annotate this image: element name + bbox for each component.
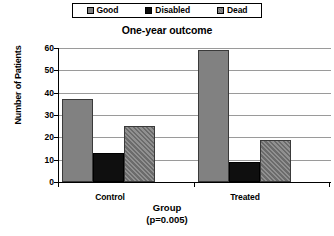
bar-group-treated bbox=[195, 48, 331, 182]
plot-area bbox=[58, 48, 331, 183]
x-axis-label-control: Control bbox=[70, 192, 150, 202]
y-tick-label-30: 30 bbox=[32, 111, 54, 120]
y-axis-label: Number of Patients bbox=[13, 25, 23, 145]
bar-treated-dead bbox=[260, 140, 291, 182]
y-tick-mark-40 bbox=[54, 93, 58, 94]
y-tick-label-10: 10 bbox=[32, 156, 54, 165]
legend-item-dead: Dead bbox=[217, 6, 247, 15]
y-tick-label-20: 20 bbox=[32, 133, 54, 142]
chart-legend: Good Disabled Dead bbox=[72, 3, 262, 18]
x-axis-label-treated: Treated bbox=[205, 192, 285, 202]
x-axis-title: Group bbox=[0, 203, 334, 214]
bar-treated-good bbox=[198, 50, 229, 182]
bar-group-control bbox=[59, 48, 195, 182]
x-axis-pvalue-note: (p=0.005) bbox=[0, 215, 334, 226]
bar-control-good bbox=[62, 99, 93, 182]
legend-swatch-disabled-icon bbox=[145, 7, 152, 14]
y-tick-label-60: 60 bbox=[32, 44, 54, 53]
x-axis-tick-end bbox=[329, 183, 330, 187]
y-tick-label-50: 50 bbox=[32, 66, 54, 75]
chart-container: Good Disabled Dead One-year outcome Numb… bbox=[0, 0, 334, 236]
bar-control-disabled bbox=[93, 153, 124, 182]
y-tick-mark-20 bbox=[54, 137, 58, 138]
x-axis-tick-middle bbox=[194, 183, 195, 187]
bar-control-dead bbox=[124, 126, 155, 182]
legend-item-good: Good bbox=[87, 6, 119, 15]
x-axis-tick-start bbox=[58, 183, 59, 187]
y-tick-mark-10 bbox=[54, 160, 58, 161]
bar-treated-disabled bbox=[229, 162, 260, 182]
y-axis-tick-labels: 0102030405060 bbox=[28, 0, 54, 236]
y-tick-mark-0 bbox=[54, 182, 58, 183]
legend-label-dead: Dead bbox=[227, 6, 247, 15]
legend-item-disabled: Disabled bbox=[145, 6, 190, 15]
y-tick-label-40: 40 bbox=[32, 89, 54, 98]
y-tick-mark-30 bbox=[54, 115, 58, 116]
y-tick-label-0: 0 bbox=[32, 178, 54, 187]
legend-label-disabled: Disabled bbox=[155, 6, 190, 15]
bar-groups bbox=[59, 48, 331, 182]
legend-label-good: Good bbox=[97, 6, 119, 15]
legend-swatch-dead-icon bbox=[217, 7, 224, 14]
y-tick-mark-60 bbox=[54, 48, 58, 49]
legend-swatch-good-icon bbox=[87, 7, 94, 14]
y-tick-mark-50 bbox=[54, 70, 58, 71]
